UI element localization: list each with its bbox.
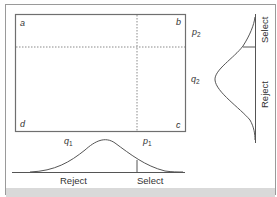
corner-label-c: c xyxy=(176,120,181,130)
bottom-select-label: Select xyxy=(137,175,164,186)
selection-diagram: a b c d p2 q2 q1 p1 Reject Select Select… xyxy=(0,0,277,197)
outer-frame xyxy=(6,5,276,195)
corner-label-a: a xyxy=(20,18,25,28)
bottom-band xyxy=(6,188,275,197)
right-reject-label: Reject xyxy=(259,81,270,108)
diagram-canvas: a b c d p2 q2 q1 p1 Reject Select Select… xyxy=(0,0,277,197)
bottom-reject-label: Reject xyxy=(60,175,87,186)
right-select-label: Select xyxy=(259,16,270,43)
corner-label-b: b xyxy=(176,17,181,27)
